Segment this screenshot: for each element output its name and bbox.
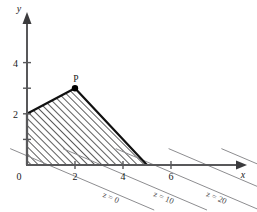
level-label-0: z = 0 <box>101 189 121 205</box>
linear-programming-figure: 24624 z = 0z = 10z = 20z = 30z = 40z = 5… <box>0 0 257 212</box>
y-axis-arrow-icon <box>23 12 32 24</box>
level-label-10: z = 10 <box>152 189 176 207</box>
x-axis-label: x <box>240 169 246 180</box>
vertex-label-P: P <box>73 74 78 84</box>
x-tick-label-4: 4 <box>121 171 126 182</box>
y-axis-label: y <box>16 3 22 14</box>
level-label-20: z = 20 <box>205 189 229 207</box>
optimal-vertex: P <box>72 74 79 91</box>
vertex-point-marker <box>72 85 78 91</box>
y-tick-label-2: 2 <box>13 109 18 120</box>
plot-canvas: 24624 z = 0z = 10z = 20z = 30z = 40z = 5… <box>0 0 257 212</box>
x-tick-label-2: 2 <box>73 171 78 182</box>
y-tick-label-4: 4 <box>13 58 18 69</box>
x-tick-label-6: 6 <box>169 171 174 182</box>
origin-label: 0 <box>17 171 22 182</box>
